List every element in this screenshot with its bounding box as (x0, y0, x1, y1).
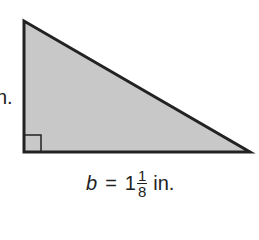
height-label: n. (0, 86, 13, 109)
fraction-denominator: 8 (138, 184, 146, 199)
base-fraction: 1 8 (137, 168, 147, 199)
base-variable: b (86, 172, 97, 195)
triangle (24, 21, 250, 152)
base-whole-number: 1 (125, 172, 136, 195)
base-label: b = 1 1 8 in. (86, 168, 174, 199)
equals-sign: = (105, 172, 117, 195)
fraction-numerator: 1 (137, 168, 147, 184)
base-unit: in. (153, 172, 174, 195)
